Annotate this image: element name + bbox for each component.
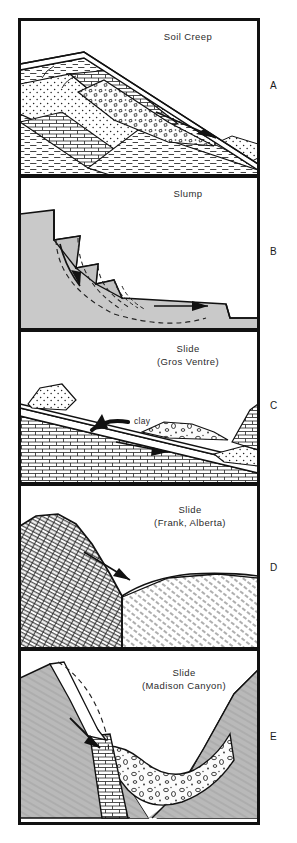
panel-b-title: Slump <box>174 188 203 199</box>
panel-a-title: Soil Creep <box>164 31 212 42</box>
panel-a-soil-creep: Soil Creep <box>20 20 258 175</box>
mass-wasting-figure: Soil Creep <box>0 0 297 843</box>
panel-c-slide-gros-ventre: clay Slide (Gros Ventre) <box>20 331 258 483</box>
panel-c-title: Slide <box>176 343 199 354</box>
panel-letter-c: C <box>270 400 278 411</box>
figure-frame: Soil Creep <box>18 18 260 825</box>
panel-letter-d: D <box>270 562 278 573</box>
panel-e-slide-madison-canyon: Slide (Madison Canyon) <box>20 650 258 823</box>
panel-letter-e: E <box>270 731 277 742</box>
panel-letter-b: B <box>270 246 277 257</box>
clay-label: clay <box>134 416 151 426</box>
panel-c-subtitle: (Gros Ventre) <box>157 356 219 367</box>
panel-d-title: Slide <box>178 504 201 515</box>
panel-d-slide-frank-alberta: Slide (Frank, Alberta) <box>20 485 258 648</box>
panel-e-title: Slide <box>172 667 195 678</box>
figure-svg: Soil Creep <box>18 18 260 825</box>
panel-d-subtitle: (Frank, Alberta) <box>154 517 226 528</box>
panel-b-slump: Slump <box>20 177 258 329</box>
panel-e-subtitle: (Madison Canyon) <box>142 680 226 691</box>
panel-letter-a: A <box>270 80 277 91</box>
